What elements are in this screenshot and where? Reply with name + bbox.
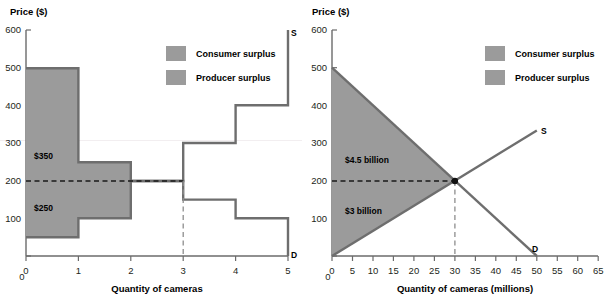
left-y-tick-400: 400 xyxy=(5,100,21,111)
right-x-tick-5: 5 xyxy=(350,265,355,276)
left-y-axis-title: Price ($) xyxy=(10,6,48,17)
left-x-tick-1: 1 xyxy=(76,265,81,276)
right-y-tick-400: 400 xyxy=(311,100,327,111)
right-x-tick-labels: 0 5 10 15 20 25 30 35 40 45 50 55 60 65 xyxy=(329,265,603,276)
right-x-tick-60: 60 xyxy=(572,265,583,276)
right-y-tick-300: 300 xyxy=(311,137,327,148)
left-x-tick-0: 0 xyxy=(23,265,28,276)
right-legend-label-consumer: Consumer surplus xyxy=(515,49,595,59)
left-legend-swatch-producer xyxy=(166,70,186,85)
right-consumer-surplus-value: $4.5 billion xyxy=(345,155,389,165)
right-x-tick-15: 15 xyxy=(388,265,399,276)
right-equilibrium-point xyxy=(452,178,458,184)
right-y-tick-100: 100 xyxy=(311,213,327,224)
right-legend-swatch-producer xyxy=(485,70,505,85)
right-x-tick-50: 50 xyxy=(532,265,543,276)
left-y-tick-600: 600 xyxy=(5,24,21,35)
left-legend: Consumer surplus Producer surplus xyxy=(166,46,276,85)
right-x-tick-30: 30 xyxy=(450,265,461,276)
right-y-tick-600: 600 xyxy=(311,24,327,35)
surplus-figure: Price ($) 0 100 200 300 400 500 xyxy=(0,0,604,300)
left-chart-svg: Price ($) 0 100 200 300 400 500 xyxy=(0,0,302,300)
left-demand-curve-label: D xyxy=(291,250,297,260)
right-chart-panel: Price ($) 0 100 200 300 400 500 xyxy=(302,0,604,300)
right-y-tick-labels: 0 100 200 300 400 500 600 xyxy=(311,24,331,282)
right-x-tick-65: 65 xyxy=(593,265,604,276)
left-y-tick-labels: 0 100 200 300 400 500 600 xyxy=(5,24,25,282)
left-x-tick-labels: 0 1 2 3 4 5 xyxy=(23,265,290,276)
right-x-tick-55: 55 xyxy=(552,265,563,276)
right-chart-svg: Price ($) 0 100 200 300 400 500 xyxy=(302,0,604,300)
left-y-tick-300: 300 xyxy=(5,137,21,148)
left-legend-label-producer: Producer surplus xyxy=(196,73,271,83)
left-legend-swatch-consumer xyxy=(166,46,186,61)
right-x-tick-25: 25 xyxy=(429,265,440,276)
right-legend: Consumer surplus Producer surplus xyxy=(485,46,595,85)
right-y-axis-title: Price ($) xyxy=(312,6,350,17)
left-y-tick-200: 200 xyxy=(5,175,21,186)
right-y-tick-200: 200 xyxy=(311,175,327,186)
left-y-tick-500: 500 xyxy=(5,62,21,73)
left-x-ticks xyxy=(26,256,288,261)
right-legend-swatch-consumer xyxy=(485,46,505,61)
left-consumer-surplus-value: $350 xyxy=(34,151,53,161)
right-producer-surplus-value: $3 billion xyxy=(345,206,382,216)
left-legend-label-consumer: Consumer surplus xyxy=(196,49,276,59)
right-y-tick-500: 500 xyxy=(311,62,327,73)
left-y-tick-100: 100 xyxy=(5,213,21,224)
left-x-tick-4: 4 xyxy=(233,265,238,276)
right-x-ticks xyxy=(332,256,598,261)
right-demand-curve-label: D xyxy=(532,244,538,254)
left-x-tick-2: 2 xyxy=(128,265,133,276)
right-x-axis-title: Quantity of cameras (millions) xyxy=(397,283,533,294)
left-x-tick-5: 5 xyxy=(285,265,290,276)
right-x-tick-0: 0 xyxy=(329,265,334,276)
left-x-axis-title: Quantity of cameras xyxy=(111,283,202,294)
right-x-tick-45: 45 xyxy=(511,265,522,276)
left-supply-curve-label: S xyxy=(291,28,297,38)
right-x-tick-35: 35 xyxy=(470,265,481,276)
left-producer-surplus-value: $250 xyxy=(34,203,53,213)
right-supply-curve-label: S xyxy=(541,126,547,136)
right-x-tick-40: 40 xyxy=(491,265,502,276)
left-chart-panel: Price ($) 0 100 200 300 400 500 xyxy=(0,0,302,300)
right-x-tick-10: 10 xyxy=(368,265,379,276)
right-x-tick-20: 20 xyxy=(409,265,420,276)
left-x-tick-3: 3 xyxy=(181,265,186,276)
right-legend-label-producer: Producer surplus xyxy=(515,73,590,83)
